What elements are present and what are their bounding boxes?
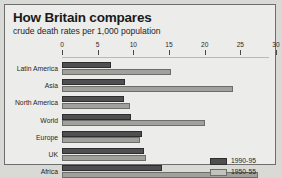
x-tick-mark — [133, 50, 134, 55]
x-tick-mark — [240, 50, 241, 55]
category-label: Africa — [5, 168, 58, 171]
bar-series-1990-95 — [62, 96, 124, 102]
category-label: Latin America — [5, 65, 58, 72]
category-label: Europe — [5, 134, 58, 141]
x-axis-line — [62, 57, 269, 58]
x-tick-label: 30 — [272, 41, 279, 48]
x-tick-label: 15 — [165, 41, 172, 48]
category-label: North America — [5, 99, 58, 106]
x-tick-label: 25 — [237, 41, 244, 48]
plot-area: 051015202530 Latin AmericaAsiaNorth Amer… — [5, 41, 275, 164]
category-label: UK — [5, 151, 58, 158]
category-label: World — [5, 117, 58, 124]
x-tick-mark — [98, 50, 99, 55]
bar-series-1990-95 — [62, 114, 131, 120]
bar-series-1950-55 — [62, 137, 140, 143]
bar-series-1950-55 — [62, 120, 205, 126]
bar-series-1950-55 — [62, 69, 171, 75]
legend-swatch — [210, 158, 227, 165]
bar-series-1950-55 — [62, 86, 233, 92]
chart-title: How Britain compares — [13, 10, 152, 25]
legend-label: 1990-95 — [231, 157, 256, 164]
bar-series-1990-95 — [62, 62, 111, 68]
bar-series-1990-95 — [62, 131, 142, 137]
x-tick-mark — [205, 50, 206, 55]
bar-series-1950-55 — [62, 103, 130, 109]
category-label: Asia — [5, 82, 58, 89]
x-tick-label: 5 — [96, 41, 100, 48]
bar-series-1990-95 — [62, 165, 162, 171]
x-tick-label: 10 — [130, 41, 137, 48]
bar-series-1990-95 — [62, 79, 125, 85]
chart-figure: How Britain compares crude death rates p… — [4, 4, 276, 165]
x-tick-mark — [62, 50, 63, 55]
chart-subtitle: crude death rates per 1,000 population — [13, 26, 161, 36]
bar-series-1950-55 — [62, 155, 146, 161]
bar-series-1990-95 — [62, 148, 144, 154]
x-tick-mark — [169, 50, 170, 55]
legend-swatch — [210, 169, 227, 171]
x-tick-mark — [276, 50, 277, 55]
x-tick-label: 0 — [60, 41, 64, 48]
legend-label: 1950-55 — [231, 168, 256, 171]
x-tick-label: 20 — [201, 41, 208, 48]
